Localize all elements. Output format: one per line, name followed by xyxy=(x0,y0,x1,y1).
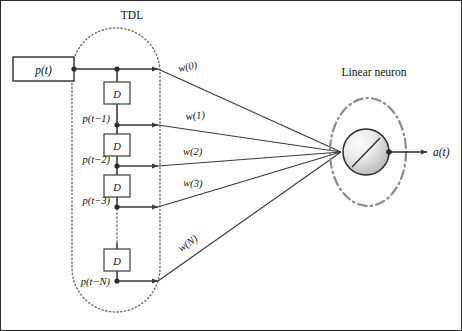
delay-box-2-label: D xyxy=(112,141,121,152)
delay-box-1: D xyxy=(104,82,130,104)
output-label: a(t) xyxy=(433,146,450,159)
tap-n-dot xyxy=(114,278,119,283)
tap-0-dot xyxy=(114,66,119,71)
tdl-label: TDL xyxy=(121,9,143,21)
tap-2-dot xyxy=(114,163,119,168)
linear-neuron-label: Linear neuron xyxy=(342,66,407,78)
delay-box-3-label: D xyxy=(112,182,121,193)
delay-box-3: D xyxy=(104,175,130,197)
diagram-canvas: TDL p(t) D D D D p(t−1) p(t−2) p(t− xyxy=(0,0,462,331)
delay-box-n-label: D xyxy=(112,256,121,267)
tapped-delay-line-neuron-diagram: TDL p(t) D D D D p(t−1) p(t−2) p(t− xyxy=(0,0,462,331)
tap-3-dot xyxy=(114,204,119,209)
delay-box-2: D xyxy=(104,134,130,156)
tap-2-label: p(t−2) xyxy=(82,154,111,166)
input-label: p(t) xyxy=(34,64,52,77)
figure-border xyxy=(1,1,462,331)
tap-n-label: p(t−N) xyxy=(80,276,111,288)
weight-label-2: w(2) xyxy=(183,146,203,158)
delay-box-n: D xyxy=(104,249,130,271)
tap-1-dot xyxy=(114,122,119,127)
tap-3-label: p(t−3) xyxy=(82,195,111,207)
tap-1-label: p(t−1) xyxy=(82,113,111,125)
delay-box-1-label: D xyxy=(112,89,121,100)
